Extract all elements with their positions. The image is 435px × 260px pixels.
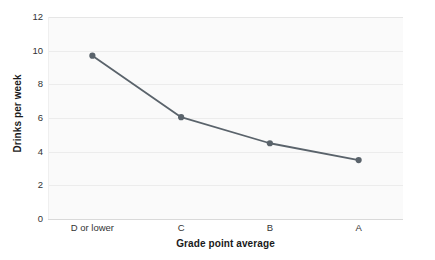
x-axis-title: Grade point average [48, 238, 403, 249]
series-markers [89, 53, 361, 164]
data-point [267, 140, 273, 146]
data-point [356, 157, 362, 163]
line-chart: 024681012 D or lowerCBA Drinks per week … [0, 0, 435, 260]
series-line [92, 56, 358, 160]
data-point [178, 114, 184, 120]
y-axis-title: Drinks per week [12, 44, 23, 184]
data-point [89, 53, 95, 59]
data-series-layer [0, 0, 435, 260]
